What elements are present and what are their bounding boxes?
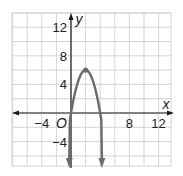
y-axis-up-arrow-icon	[69, 13, 74, 20]
origin-label: O	[56, 115, 67, 131]
x-tick-label: 12	[151, 116, 165, 131]
x-tick-label: −4	[34, 116, 49, 131]
vertex-point	[83, 68, 88, 73]
y-tick-label: 4	[60, 77, 67, 92]
grid-lines	[12, 13, 171, 166]
x-axis-label: x	[162, 96, 171, 112]
axes	[12, 13, 174, 168]
grid-border	[12, 13, 171, 166]
y-axis-label: y	[75, 11, 84, 27]
y-tick-label: −4	[52, 135, 67, 150]
x-tick-label: 8	[126, 116, 133, 131]
y-tick-label: 8	[60, 49, 67, 64]
parabola-graph: −48121284−4Oxy	[0, 0, 183, 176]
y-tick-label: 12	[53, 20, 67, 35]
